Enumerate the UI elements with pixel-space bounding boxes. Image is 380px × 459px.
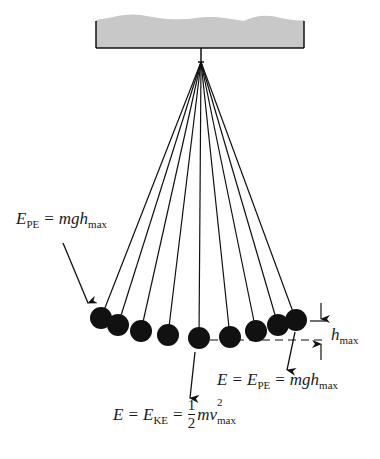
subscript-pe: PE <box>257 379 270 391</box>
subscript-ke: KE <box>153 414 168 426</box>
energy-symbol: E <box>143 405 153 424</box>
left-energy-label: EPE=mghmax <box>16 210 107 227</box>
energy-symbol: E <box>217 370 227 389</box>
pendulum-string <box>201 62 278 325</box>
pendulum-string <box>199 62 201 338</box>
pivot-point <box>198 48 204 62</box>
subscript-max: max <box>319 379 338 391</box>
pendulum-string <box>201 62 230 337</box>
left-bob-pointer-arrow <box>63 243 88 303</box>
pendulum-string <box>118 62 201 325</box>
bottom-bob-pointer-arrow <box>190 352 195 398</box>
pendulum-bob <box>130 320 152 342</box>
energy-symbol: E <box>113 405 123 424</box>
superscript-2: 2 <box>217 397 223 408</box>
pendulum-bob <box>219 326 241 348</box>
one-half-fraction: 12 <box>188 398 196 431</box>
fraction-denominator: 2 <box>188 416 196 431</box>
fraction-numerator: 1 <box>188 398 196 413</box>
ceiling-support <box>96 14 304 48</box>
energy-symbol: E <box>16 209 26 228</box>
equals-sign: = <box>44 209 54 228</box>
subscript-max: max <box>88 218 107 230</box>
pendulum-strings <box>101 62 296 338</box>
pendulum-bob <box>107 314 129 336</box>
pendulum-string <box>201 62 256 331</box>
equals-sign: = <box>232 370 242 389</box>
energy-symbol: E <box>247 370 257 389</box>
mgh-term: mgh <box>290 370 319 389</box>
subscript-pe: PE <box>26 218 39 230</box>
mv-term: mv <box>197 405 217 424</box>
equals-sign: = <box>173 405 183 424</box>
hmax-label: hmax <box>331 326 358 343</box>
mgh-term: mgh <box>59 209 88 228</box>
equals-sign: = <box>128 405 138 424</box>
pendulum-bob <box>157 324 179 346</box>
bottom-energy-label: E=EKE=12mv2max <box>113 400 236 433</box>
subscript-max: max <box>340 334 359 346</box>
ceiling-block <box>96 14 304 48</box>
pendulum-string <box>201 62 296 320</box>
pendulum-bob <box>285 309 307 331</box>
pendulum-bob <box>245 320 267 342</box>
height-symbol: h <box>331 325 340 344</box>
subscript-max: max <box>217 414 236 426</box>
pendulum-string <box>141 62 201 331</box>
right-energy-label: E=EPE=mghmax <box>217 371 338 388</box>
right-bob-pointer-arrow <box>287 332 295 370</box>
equals-sign: = <box>275 370 285 389</box>
pendulum-bob <box>188 327 210 349</box>
